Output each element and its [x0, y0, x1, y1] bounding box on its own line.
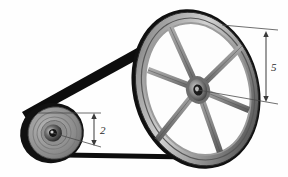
figure-canvas: 2 5 [0, 0, 288, 177]
arrowhead-down-5 [263, 96, 268, 102]
flywheel [113, 0, 279, 177]
arrowhead-up-2 [91, 113, 96, 119]
pulley-diagram: 2 5 [0, 0, 288, 177]
dimension-label-2: 2 [100, 124, 106, 136]
arrowhead-up-5 [263, 31, 268, 37]
drive-pulley [13, 95, 91, 170]
dimension-label-5: 5 [271, 61, 277, 73]
